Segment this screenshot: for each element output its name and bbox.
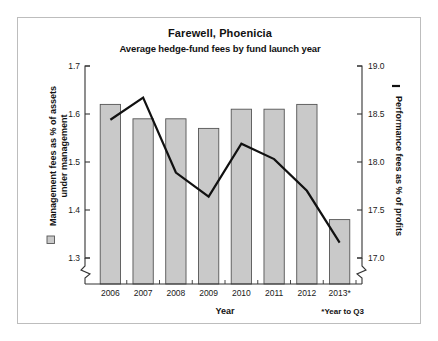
bar-2009 bbox=[198, 128, 218, 284]
x-axis-tick-label-2011: 2011 bbox=[265, 288, 284, 298]
x-axis-tick-label-2009: 2009 bbox=[199, 288, 218, 298]
chart-footnote: *Year to Q3 bbox=[321, 307, 364, 316]
bar-series bbox=[100, 104, 350, 284]
x-axis-title: Year bbox=[215, 306, 235, 316]
legend-swatch-management-fees bbox=[47, 236, 55, 244]
x-axis-tick-label-2008: 2008 bbox=[166, 288, 185, 298]
right-axis-break bbox=[357, 258, 366, 284]
chart-frame: Farewell, Phoenicia Average hedge-fund f… bbox=[17, 17, 421, 324]
left-axis-tick-label: 1.4 bbox=[68, 205, 80, 215]
x-axis: 20062007200820092010201120122013* bbox=[85, 280, 362, 298]
right-axis-tick-label: 19.0 bbox=[368, 61, 385, 71]
left-axis-tick-label: 1.3 bbox=[68, 253, 80, 263]
right-axis-tick-label: 18.0 bbox=[368, 157, 385, 167]
left-axis-title: Management fees as % of assetsunder mana… bbox=[48, 86, 69, 226]
left-axis-break bbox=[81, 258, 90, 284]
left-axis-tick-label: 1.5 bbox=[68, 157, 80, 167]
x-axis-tick-label-2010: 2010 bbox=[232, 288, 251, 298]
left-axis-tick-label: 1.6 bbox=[68, 109, 80, 119]
bar-2013* bbox=[329, 220, 349, 284]
bar-2011 bbox=[264, 109, 284, 284]
x-axis-tick-label-2007: 2007 bbox=[134, 288, 153, 298]
left-axis-tick-label: 1.7 bbox=[68, 61, 80, 71]
bar-2008 bbox=[166, 119, 186, 284]
x-axis-tick-label-2013*: 2013* bbox=[329, 288, 352, 298]
right-axis: 17.017.518.018.519.0 bbox=[357, 61, 385, 284]
right-axis-tick-label: 17.0 bbox=[368, 253, 385, 263]
bar-2007 bbox=[133, 119, 153, 284]
bar-2012 bbox=[297, 104, 317, 284]
bar-2010 bbox=[231, 109, 251, 284]
bar-2006 bbox=[100, 104, 120, 284]
right-axis-tick-label: 18.5 bbox=[368, 109, 385, 119]
x-axis-tick-label-2012: 2012 bbox=[297, 288, 316, 298]
left-axis: 1.31.41.51.61.7 bbox=[68, 61, 90, 284]
x-axis-tick-label-2006: 2006 bbox=[101, 288, 120, 298]
right-axis-tick-label: 17.5 bbox=[368, 205, 385, 215]
chart-plot-area: 1.31.41.51.61.7 17.017.518.018.519.0 200… bbox=[18, 18, 422, 325]
right-axis-title: Performance fees as % of profits bbox=[394, 96, 404, 236]
